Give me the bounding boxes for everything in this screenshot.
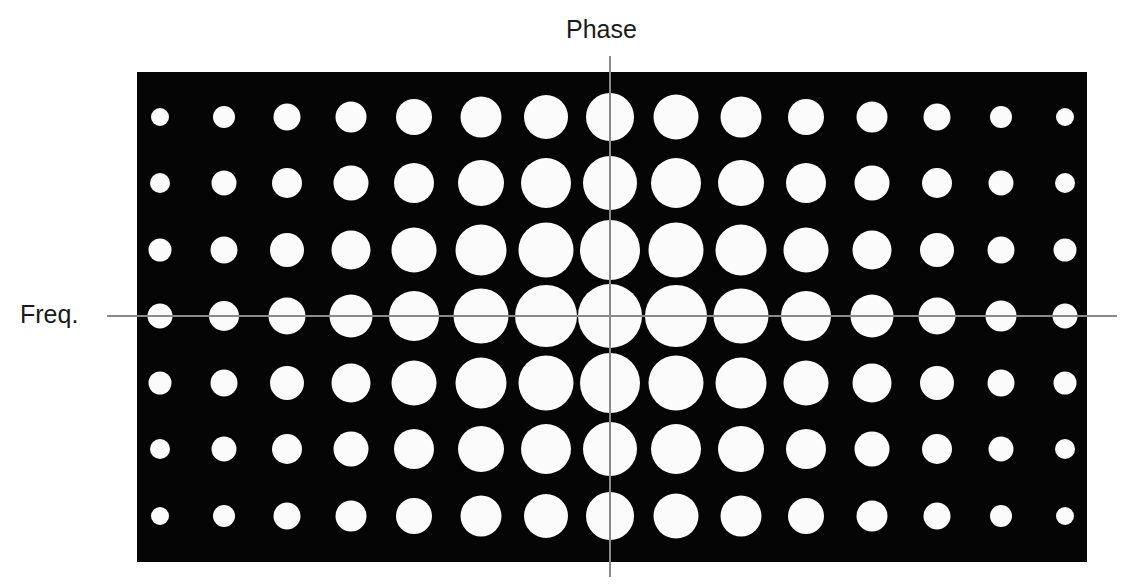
dot — [716, 358, 767, 409]
dot — [989, 437, 1014, 462]
dot — [519, 223, 574, 278]
dot — [649, 223, 704, 278]
dot — [211, 370, 238, 397]
dot — [461, 496, 502, 537]
dot — [721, 496, 762, 537]
dot — [332, 231, 371, 270]
dot — [855, 166, 890, 201]
dot — [786, 163, 826, 203]
dot — [334, 432, 369, 467]
dot — [272, 434, 302, 464]
dot — [521, 158, 571, 208]
dot — [458, 426, 504, 472]
dot — [1055, 173, 1075, 193]
dot — [1054, 239, 1077, 262]
dot — [990, 505, 1012, 527]
dot — [718, 160, 764, 206]
dot — [784, 361, 829, 406]
dot — [270, 233, 304, 267]
dot — [920, 366, 954, 400]
dot — [396, 99, 432, 135]
dot — [922, 168, 952, 198]
dot — [721, 97, 762, 138]
dot — [332, 364, 371, 403]
dot — [718, 426, 764, 472]
dot — [857, 501, 888, 532]
dot — [272, 168, 302, 198]
dot — [211, 237, 238, 264]
dot — [716, 225, 767, 276]
dot — [213, 505, 235, 527]
dot — [922, 434, 952, 464]
dot — [212, 171, 237, 196]
dot — [149, 239, 172, 262]
dot — [853, 231, 892, 270]
dot — [651, 424, 701, 474]
phase-axis-line — [609, 56, 611, 577]
dot — [924, 503, 951, 530]
dot — [788, 99, 824, 135]
dot — [396, 498, 432, 534]
dot — [924, 104, 951, 131]
dot — [149, 372, 172, 395]
dot — [654, 494, 699, 539]
dot — [334, 166, 369, 201]
dot — [150, 439, 170, 459]
dot — [988, 237, 1015, 264]
dot — [151, 507, 169, 525]
dot — [788, 498, 824, 534]
dot — [213, 106, 235, 128]
dot — [1056, 108, 1074, 126]
dot — [151, 108, 169, 126]
dot — [274, 104, 301, 131]
dot — [920, 233, 954, 267]
frequency-axis-line — [107, 315, 1117, 317]
phase-axis-label: Phase — [566, 14, 637, 44]
dot — [649, 356, 704, 411]
dot-grid — [0, 0, 1137, 588]
dot — [521, 424, 571, 474]
dot — [857, 102, 888, 133]
dot — [651, 158, 701, 208]
dot — [784, 228, 829, 273]
dot — [524, 95, 568, 139]
dot — [654, 95, 699, 140]
dot — [212, 437, 237, 462]
dot — [456, 358, 507, 409]
dot — [394, 163, 434, 203]
dot — [524, 494, 568, 538]
dot — [990, 106, 1012, 128]
dot — [786, 429, 826, 469]
dot — [392, 228, 437, 273]
dot — [274, 503, 301, 530]
dot — [456, 225, 507, 276]
dot — [336, 501, 367, 532]
dot — [336, 102, 367, 133]
dot — [989, 171, 1014, 196]
dot — [853, 364, 892, 403]
dot — [458, 160, 504, 206]
dot — [1055, 439, 1075, 459]
dot — [270, 366, 304, 400]
dot — [394, 429, 434, 469]
dot — [392, 361, 437, 406]
dot — [1056, 507, 1074, 525]
frequency-axis-label: Freq. — [20, 299, 78, 329]
dot — [855, 432, 890, 467]
dot — [1054, 372, 1077, 395]
dot — [150, 173, 170, 193]
dot — [988, 370, 1015, 397]
dot — [461, 97, 502, 138]
dot — [519, 356, 574, 411]
